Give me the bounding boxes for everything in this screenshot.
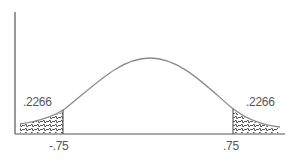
right-tail-area-label: .2266 [246,95,275,109]
left-tail-area-label: .2266 [23,95,52,109]
normal-curve-diagram [0,0,302,163]
right-tail-shading [233,111,278,133]
right-cutoff-label: .75 [223,139,239,153]
left-cutoff-label: -.75 [49,139,68,153]
